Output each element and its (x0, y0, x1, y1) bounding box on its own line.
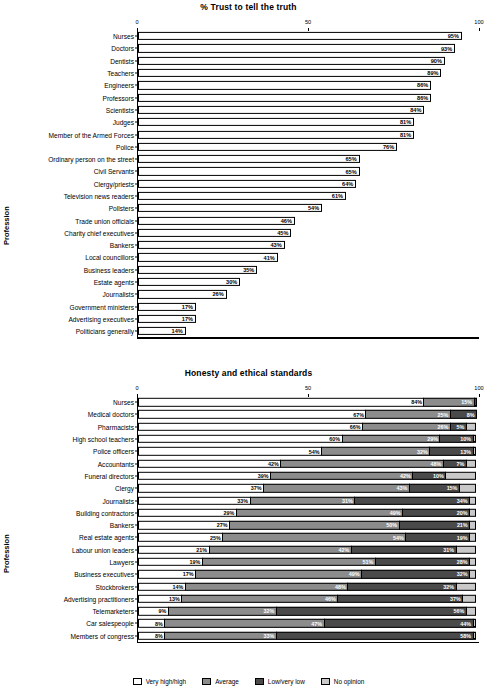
bar-segment-value: 10% (433, 473, 444, 479)
bar-segment-value: 8% (155, 620, 163, 626)
stacked-bar: 29%49%20% (138, 509, 479, 517)
x-tick-50: 50 (305, 385, 311, 391)
bar-segment-value: 33% (263, 633, 274, 639)
bar-segment-2: 28% (375, 558, 470, 566)
bar-segment-value: 8% (467, 411, 475, 417)
bar-segment-1: 15% (423, 398, 474, 406)
bar-segment-value: 21% (196, 547, 207, 553)
bar-value-label: 41% (264, 254, 275, 260)
bar: 61% (138, 192, 346, 200)
plot-area-trust: 0 50 100 Nurses95%Doctors93%Dentists90%T… (0, 19, 489, 337)
bar-row-label: Accountants (98, 460, 134, 467)
bar-segment-value: 32% (264, 608, 275, 614)
bar-row: Television news readers61% (138, 190, 479, 202)
bar-segment-value: 27% (217, 522, 228, 528)
bar-value-label: 86% (417, 82, 428, 88)
bar-segment-value: 31% (443, 547, 454, 553)
bar-segment-value: 19% (189, 559, 200, 565)
stacked-bar: 84%15% (138, 398, 479, 406)
bar-value-label: 86% (417, 95, 428, 101)
bar-row-label: Charity chief executives (64, 229, 134, 236)
bar-segment-value: 17% (183, 571, 194, 577)
bar-row-label: Member of the Armed Forces (49, 131, 134, 138)
legend-label: No opinion (334, 678, 365, 685)
stacked-bar-row: Car salespeople8%47%44% (138, 617, 479, 629)
x-axis-honesty: 0 50 100 (137, 385, 479, 396)
legend-label: Very high/high (146, 678, 187, 685)
stacked-bar: 39%42%10% (138, 472, 479, 480)
bar: 81% (138, 130, 414, 138)
chart-legend: Very high/highAverageLow/very lowNo opin… (0, 678, 497, 686)
bar-segment-1: 33% (164, 632, 277, 640)
bar-row: Advertising executives17% (138, 313, 479, 325)
x-axis-trust: 0 50 100 (137, 19, 479, 30)
bar-segment-0: 27% (138, 521, 230, 529)
bar-segment-value: 67% (353, 411, 364, 417)
chart-title-trust: % Trust to tell the truth (0, 2, 497, 12)
bar-segment-3 (456, 582, 476, 590)
bar-segment-value: 5% (456, 424, 464, 430)
bar-row: Engineers86% (138, 79, 479, 91)
stacked-bar: 21%42%31% (138, 546, 479, 554)
bar-segment-3 (473, 435, 476, 443)
bar-segment-2: 5% (450, 423, 467, 431)
bar-segment-0: 54% (138, 447, 322, 455)
bar-row-label: Advertising practitioners (64, 595, 134, 602)
stacked-bar-row: Police officers54%32%13% (138, 445, 479, 457)
bar: 17% (138, 303, 196, 311)
bar-row-label: Stockbrokers (96, 583, 134, 590)
bar: 45% (138, 229, 291, 237)
bar-segment-1: 48% (280, 459, 444, 467)
x-tick-0: 0 (135, 19, 138, 25)
stacked-bar-row: Real estate agents25%54%19% (138, 531, 479, 543)
bar-segment-0: 39% (138, 472, 271, 480)
bar-row-label: Bankers (110, 242, 134, 249)
bar-value-label: 64% (342, 181, 353, 187)
bar-row-label: Dentists (110, 57, 134, 64)
bar-value-label: 65% (345, 168, 356, 174)
bar-segment-value: 15% (447, 485, 458, 491)
bar-segment-value: 39% (258, 473, 269, 479)
bar-row-label: Real estate agents (79, 534, 134, 541)
bar-value-label: 76% (383, 144, 394, 150)
stacked-bar: 33%31%34% (138, 496, 479, 504)
bar-segment-3 (456, 546, 476, 554)
stacked-bar-row: Nurses84%15% (138, 396, 479, 408)
bar-segment-1: 54% (222, 533, 406, 541)
bar: 54% (138, 204, 322, 212)
bar-segment-value: 48% (335, 584, 346, 590)
bar-segment-value: 7% (456, 461, 464, 467)
bar-row-label: Journalists (102, 497, 134, 504)
stacked-bar-row: Building contractors29%49%20% (138, 507, 479, 519)
bar: 65% (138, 167, 360, 175)
bar-value-label: 54% (308, 205, 319, 211)
bar-row-label: Telemarketers (93, 608, 134, 615)
bar-segment-value: 42% (339, 547, 350, 553)
bar: 35% (138, 266, 257, 274)
bar-segment-value: 9% (158, 608, 166, 614)
bar-row-label: Advertising executives (68, 315, 134, 322)
bar-segment-value: 34% (457, 498, 468, 504)
bar-segment-value: 46% (325, 596, 336, 602)
bar-row-label: Business executives (74, 571, 134, 578)
bar-value-label: 17% (182, 304, 193, 310)
bar-segment-value: 44% (460, 620, 471, 626)
stacked-bar-row: Stockbrokers14%48%32% (138, 580, 479, 592)
bar-row-label: Doctors (111, 45, 134, 52)
stacked-bar-row: Telemarketers9%32%56% (138, 605, 479, 617)
bar-segment-1: 46% (181, 595, 338, 603)
bar-row-label: Nurses (113, 399, 134, 406)
bar-row-label: Car salespeople (86, 620, 134, 627)
bar-value-label: 81% (400, 132, 411, 138)
bar-segment-3 (473, 447, 476, 455)
bar-segment-value: 54% (393, 534, 404, 540)
stacked-bar: 42%48%7% (138, 459, 479, 467)
bar-segment-0: 33% (138, 496, 251, 504)
bar-segment-1: 48% (185, 582, 349, 590)
bar-row: Journalists26% (138, 288, 479, 300)
legend-item: Low/very low (255, 678, 305, 686)
bar-segment-3 (469, 509, 476, 517)
bar-value-label: 45% (277, 230, 288, 236)
stacked-bar: 8%33%58% (138, 632, 479, 640)
bar: 43% (138, 241, 285, 249)
